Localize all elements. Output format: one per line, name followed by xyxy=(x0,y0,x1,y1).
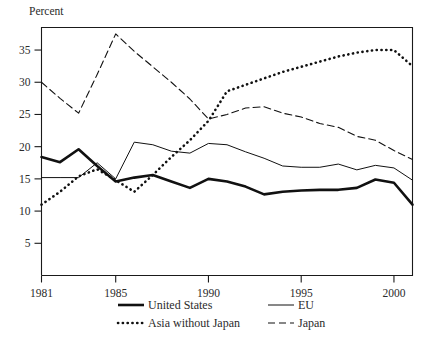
y-axis-label: Percent xyxy=(29,5,64,17)
y-tick-label: 30 xyxy=(19,76,31,88)
chart-figure: Percent 5101520253035 198119851990199520… xyxy=(0,0,432,347)
y-tick-label: 5 xyxy=(25,237,31,249)
x-tick-label: 1990 xyxy=(197,287,220,299)
y-tick-label: 20 xyxy=(19,141,31,153)
y-tick-label: 10 xyxy=(19,205,31,217)
y-tick-label: 25 xyxy=(19,108,31,120)
x-tick-label: 1985 xyxy=(104,287,127,299)
y-tick-label: 35 xyxy=(19,44,31,56)
x-tick-label: 1995 xyxy=(290,287,313,299)
legend-label-united-states: United States xyxy=(148,298,213,312)
legend-label-asia-without-japan: Asia without Japan xyxy=(148,316,240,330)
line-chart: Percent 5101520253035 198119851990199520… xyxy=(0,0,432,347)
legend-label-eu: EU xyxy=(298,298,314,312)
x-tick-label: 1981 xyxy=(30,287,53,299)
y-tick-label: 15 xyxy=(19,173,31,185)
legend-label-japan: Japan xyxy=(298,316,325,330)
x-tick-label: 2000 xyxy=(382,287,405,299)
